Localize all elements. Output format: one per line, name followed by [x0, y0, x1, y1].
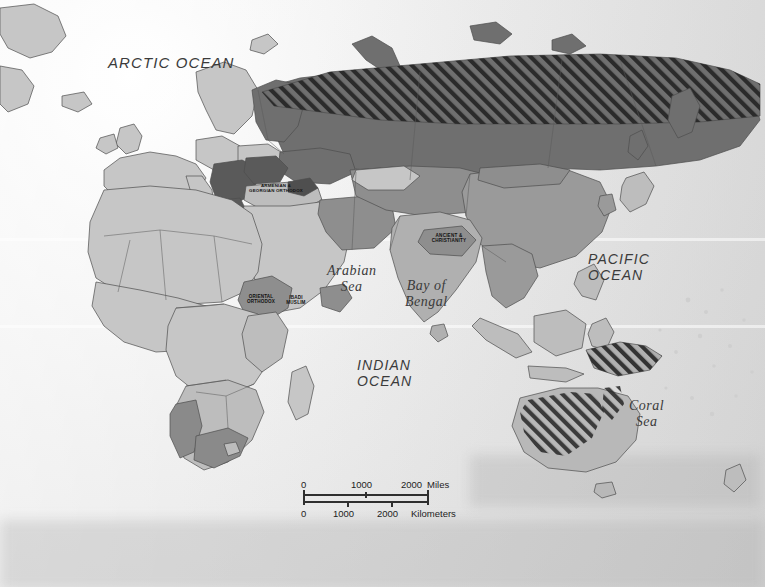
land-japan	[620, 172, 654, 212]
region-label-ancient-christianity: ANCIENT & CHRISTIANITY	[422, 234, 476, 244]
land-iceland	[62, 92, 92, 112]
scale-km-tick-1000: 1000	[333, 508, 354, 519]
ocean-label-pacific: PACIFIC OCEAN	[588, 252, 650, 283]
land-british-isles	[116, 124, 142, 154]
land-new-zealand	[724, 464, 746, 492]
land-tasmania	[594, 482, 616, 498]
land-madagascar	[288, 366, 314, 420]
ocean-label-coral-sea: Coral Sea	[629, 398, 664, 429]
land-arctic-isles-east	[470, 22, 512, 44]
scale-miles-tick-0: 0	[301, 479, 306, 490]
region-label-ibadi-muslim: IBADI MUSLIM	[278, 296, 314, 306]
land-java	[528, 366, 584, 382]
land-belarus-ukraine	[278, 148, 356, 184]
land-sumatra	[472, 318, 532, 358]
scale-km-unit: Kilometers	[411, 508, 456, 519]
land-scandinavia-light	[196, 62, 258, 134]
land-severnaya	[552, 34, 586, 54]
land-mongolia	[478, 164, 570, 188]
land-greenland	[0, 4, 66, 58]
land-indochina	[482, 244, 538, 308]
ocean-label-indian: INDIAN OCEAN	[357, 358, 412, 389]
world-map: ARCTIC OCEAN PACIFIC OCEAN INDIAN OCEAN …	[0, 0, 765, 587]
land-sri-lanka	[430, 324, 448, 342]
ocean-label-arabian-sea: Arabian Sea	[327, 263, 376, 294]
pacific-islands	[658, 288, 753, 416]
ocean-label-arctic: ARCTIC OCEAN	[108, 55, 235, 72]
land-svalbard	[250, 34, 278, 54]
scale-miles-tick-1000: 1000	[351, 479, 372, 490]
scale-miles-unit: Miles	[427, 479, 449, 490]
scale-miles-tick-2000: 2000	[401, 479, 422, 490]
land-canada-fringe	[0, 66, 34, 112]
landmass-layer	[0, 0, 765, 587]
region-label-armenian-georgian-orthodox: ARMENIAN & GEORGIAN ORTHODOX	[248, 184, 304, 193]
ocean-label-bay-of-bengal: Bay of Bengal	[405, 278, 448, 309]
scale-km-tick-0: 0	[301, 508, 306, 519]
scale-km-tick-2000: 2000	[377, 508, 398, 519]
land-ireland	[96, 134, 118, 154]
land-borneo	[534, 310, 586, 356]
